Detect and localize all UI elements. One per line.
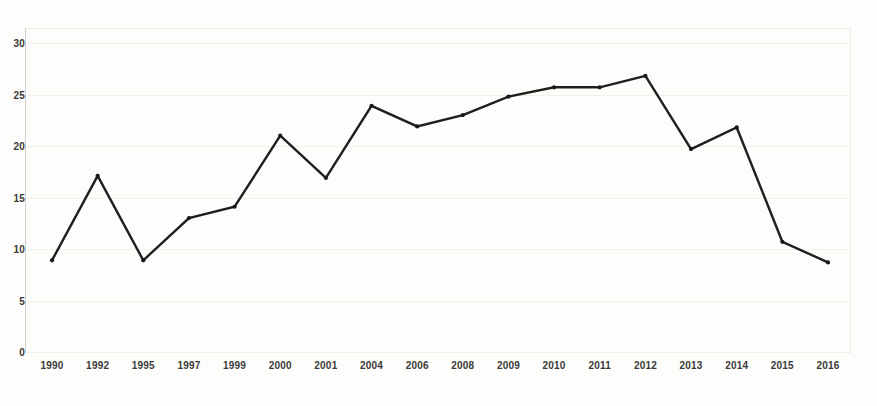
- data-point: [780, 240, 784, 244]
- series-markers: [50, 74, 830, 265]
- data-point: [324, 176, 328, 180]
- data-point: [689, 147, 693, 151]
- data-point: [552, 85, 556, 89]
- data-point: [415, 124, 419, 128]
- data-point: [643, 74, 647, 78]
- series-line-1: [52, 76, 828, 262]
- data-point: [369, 104, 373, 108]
- data-point: [461, 113, 465, 117]
- data-point: [50, 258, 54, 262]
- chart-screenshot: 051015202530 199019921995199719992000200…: [0, 0, 877, 406]
- data-point: [232, 205, 236, 209]
- data-point: [735, 125, 739, 129]
- data-point: [278, 134, 282, 138]
- data-point: [96, 174, 100, 178]
- data-point: [506, 94, 510, 98]
- data-point: [187, 216, 191, 220]
- data-point: [826, 260, 830, 264]
- data-point: [141, 258, 145, 262]
- line-series-layer: [0, 0, 877, 406]
- data-point: [598, 85, 602, 89]
